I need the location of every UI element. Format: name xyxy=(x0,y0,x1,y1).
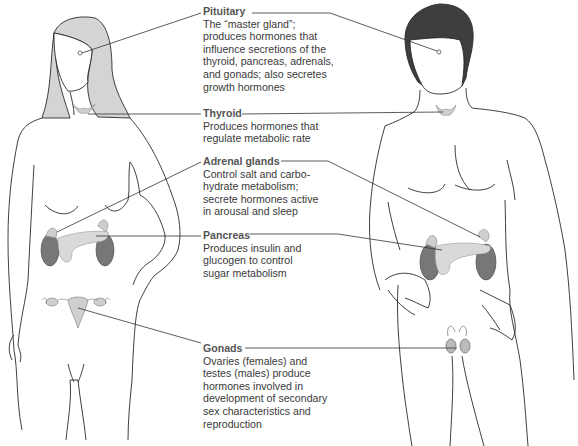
male-figure xyxy=(369,4,574,446)
label-line: thyroid, pancreas, adrenals, xyxy=(203,55,373,68)
label-title: Gonads xyxy=(203,342,242,354)
label-line: hormones involved in xyxy=(203,380,373,393)
label-pituitary: Pituitary The “master gland”; produces h… xyxy=(203,5,373,93)
label-line: Produces hormones that xyxy=(203,120,373,133)
label-line: hydrate metabolism; xyxy=(203,180,373,193)
label-line: Ovaries (females) and xyxy=(203,355,373,368)
female-adrenal-right xyxy=(98,220,108,232)
label-line: Produces insulin and xyxy=(203,242,373,255)
male-testes xyxy=(446,326,470,353)
label-adrenal-glands: Adrenal glands Control salt and carbo- h… xyxy=(203,155,373,218)
label-line: influence secretions of the xyxy=(203,43,373,56)
label-line: in arousal and sleep xyxy=(203,205,373,218)
male-face xyxy=(410,38,464,94)
female-kidney-left xyxy=(41,234,59,266)
label-line: testes (males) produce xyxy=(203,367,373,380)
label-thyroid: Thyroid Produces hormones that regulate … xyxy=(203,107,373,145)
label-pancreas: Pancreas Produces insulin and glucogen t… xyxy=(203,229,373,279)
label-title: Adrenal glands xyxy=(203,155,280,167)
label-line: Control salt and carbo- xyxy=(203,168,373,181)
label-line: reproduction xyxy=(203,418,373,431)
label-line: regulate metabolic rate xyxy=(203,132,373,145)
female-figure xyxy=(8,17,180,440)
label-line: and gonads; also secretes xyxy=(203,68,373,81)
male-adrenal-right xyxy=(478,229,489,242)
label-line: produces hormones that xyxy=(203,30,373,43)
label-line: growth hormones xyxy=(203,81,373,94)
label-line: glucogen to control xyxy=(203,254,373,267)
male-pituitary-dot xyxy=(437,50,441,54)
label-line: secrete hormones active xyxy=(203,193,373,206)
male-thyroid xyxy=(436,105,456,115)
label-line: development of secondary xyxy=(203,392,373,405)
label-title: Thyroid xyxy=(203,107,242,119)
label-line: The “master gland”; xyxy=(203,18,373,31)
female-adrenal-left xyxy=(46,228,57,238)
label-line: sugar metabolism xyxy=(203,267,373,280)
female-ovaries-uterus xyxy=(42,297,110,328)
label-title: Pituitary xyxy=(203,5,245,17)
label-title: Pancreas xyxy=(203,229,250,241)
label-line: sex characteristics and xyxy=(203,405,373,418)
label-gonads: Gonads Ovaries (females) and testes (mal… xyxy=(203,342,373,430)
female-pituitary-dot xyxy=(78,51,82,55)
